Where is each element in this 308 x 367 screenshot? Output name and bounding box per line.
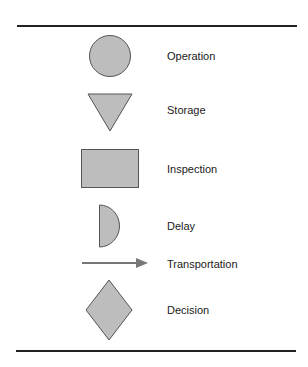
- inspection-rectangle-icon: [82, 150, 139, 188]
- delay-half-circle-icon: [100, 205, 120, 247]
- label-storage: Storage: [167, 104, 206, 117]
- label-inspection: Inspection: [167, 163, 217, 176]
- label-operation: Operation: [167, 50, 215, 63]
- label-decision: Decision: [167, 304, 209, 317]
- label-delay: Delay: [167, 220, 195, 233]
- transportation-arrow-icon: [82, 258, 148, 268]
- label-transportation: Transportation: [167, 258, 238, 271]
- operation-circle-icon: [90, 36, 131, 77]
- decision-diamond-icon: [86, 280, 132, 340]
- symbol-column: [0, 0, 308, 367]
- storage-triangle-icon: [88, 94, 132, 131]
- bottom-rule: [16, 350, 296, 352]
